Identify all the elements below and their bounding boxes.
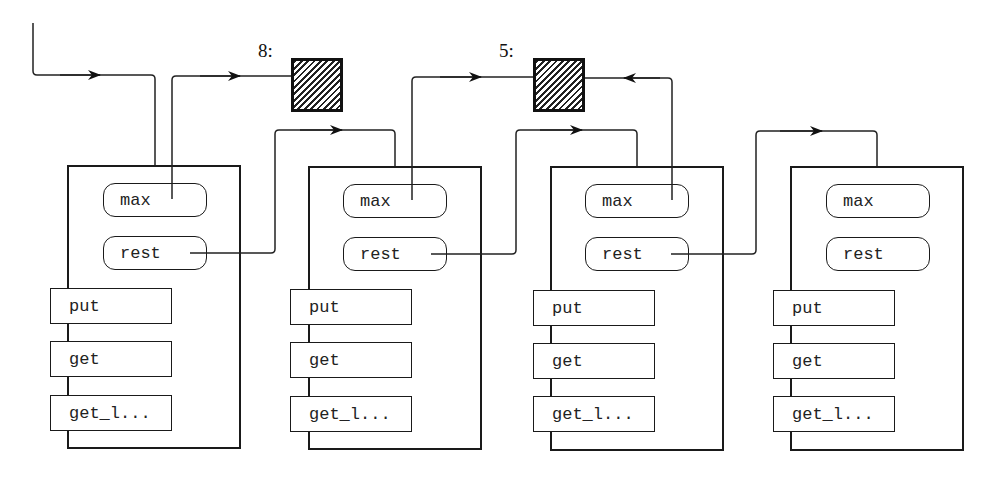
obj2-max-to-cell5 [412, 77, 533, 200]
connection-lines [0, 0, 994, 480]
obj1-max-to-cell8 [172, 76, 291, 199]
obj1-rest-to-obj2 [190, 130, 395, 253]
object-chain-diagram: 8: 5: max rest put get get_l... max rest… [0, 0, 994, 480]
entry-connection [33, 23, 155, 165]
obj3-rest-to-obj4 [671, 131, 877, 254]
obj3-max-to-cell5 [585, 78, 672, 200]
obj2-rest-to-obj3 [431, 130, 637, 254]
